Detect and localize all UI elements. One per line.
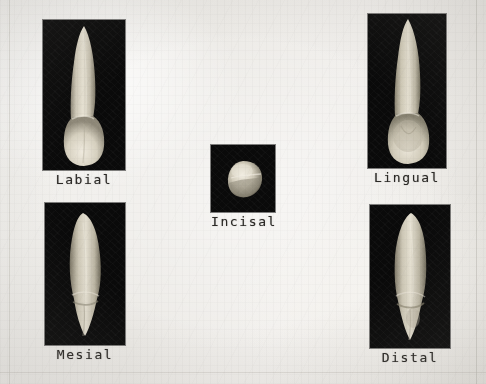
tooth-lingual-icon	[368, 14, 446, 168]
panel-distal[interactable]: Distal	[370, 205, 450, 348]
tooth-distal-icon	[370, 205, 450, 348]
tooth-labial-icon	[43, 20, 125, 170]
right-margin-rule	[476, 0, 477, 384]
tooth-mesial-icon	[45, 203, 125, 345]
bottom-margin-rule	[0, 372, 486, 373]
photo-frame-lingual	[368, 14, 446, 168]
panel-labial[interactable]: Labial	[43, 20, 125, 170]
caption-lingual: Lingual	[368, 170, 446, 185]
caption-distal: Distal	[370, 350, 450, 365]
panel-incisal[interactable]: Incisal	[211, 145, 275, 212]
caption-labial: Labial	[43, 172, 125, 187]
caption-mesial: Mesial	[45, 347, 125, 362]
photo-frame-incisal	[211, 145, 275, 212]
tooth-aspects-plate: Labial	[0, 0, 486, 384]
panel-lingual[interactable]: Lingual	[368, 14, 446, 168]
panel-mesial[interactable]: Mesial	[45, 203, 125, 345]
photo-frame-mesial	[45, 203, 125, 345]
photo-frame-distal	[370, 205, 450, 348]
photo-frame-labial	[43, 20, 125, 170]
left-margin-rule	[9, 0, 10, 384]
caption-incisal: Incisal	[211, 214, 275, 229]
tooth-incisal-icon	[211, 145, 275, 212]
